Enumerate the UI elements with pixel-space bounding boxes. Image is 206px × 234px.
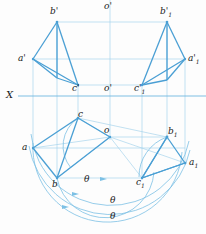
label-b-prime-1: b'1	[160, 7, 172, 18]
label-b-plan: b	[52, 180, 58, 189]
label-a-prime: a'	[18, 54, 26, 63]
aux-line-c-b1	[78, 118, 167, 137]
edge-cprime1-bprime1	[142, 22, 167, 85]
arrowhead-inner-arc	[100, 177, 107, 181]
dot-a-plan-1	[184, 162, 187, 165]
dot-a-plan	[32, 147, 34, 149]
triangle-front-right	[142, 22, 185, 85]
label-c-prime: c'	[72, 84, 80, 93]
label-x-axis: X	[6, 90, 13, 100]
label-b-plan-1-subscript: 1	[174, 131, 178, 138]
arrowhead-outer-arc	[62, 205, 69, 209]
edge-b1-c1-alt	[142, 137, 167, 178]
label-o-prime-mid: o'	[104, 84, 112, 93]
projection-drawing-canvas	[0, 0, 206, 234]
label-c-prime-1-subscript: 1	[142, 88, 146, 95]
dot-a-prime	[32, 58, 34, 60]
edge-a-b	[33, 148, 57, 178]
label-o-prime-top: o'	[104, 2, 112, 11]
dot-o-plan	[109, 136, 111, 138]
label-c-plan: c	[78, 110, 83, 119]
label-b-prime: b'	[50, 7, 58, 16]
edge-c-a	[33, 118, 78, 148]
aux-line-o-c1	[110, 137, 142, 178]
label-theta-middle: θ	[110, 196, 115, 205]
label-b-prime-1-subscript: 1	[168, 11, 172, 18]
label-theta-inner: θ	[84, 175, 89, 184]
edge-cprime-bprime	[57, 22, 78, 85]
edge-aprime1-inner	[167, 59, 185, 80]
aux-line-o-a1	[110, 137, 185, 163]
dot-b-prime	[56, 21, 59, 24]
descriptive-geometry-figure: o' b' b'1 a' a'1 c' o' c'1 X c o b1 a a1…	[0, 0, 206, 234]
triangle-front-left	[33, 22, 78, 85]
label-theta-outer: θ	[110, 212, 115, 221]
label-a-plan: a	[22, 143, 27, 152]
label-c-prime-1: c'1	[134, 84, 145, 95]
dot-a-prime-1	[184, 58, 186, 60]
arrowhead-middle-arc	[72, 192, 79, 196]
dot-b-prime-1	[166, 21, 169, 24]
label-c-plan-1: c1	[136, 178, 145, 189]
label-a-plan-1-subscript: 1	[194, 162, 198, 169]
label-b-plan-1: b1	[168, 127, 178, 138]
label-a-prime-1-subscript: 1	[196, 58, 200, 65]
label-c-plan-1-subscript: 1	[141, 182, 145, 189]
label-a-prime-1: a'1	[188, 54, 200, 65]
edge-b1-a1	[167, 137, 185, 163]
label-a-plan-1: a1	[189, 158, 198, 169]
edge-aprime-inner	[33, 59, 57, 78]
edge-bprime-aprime	[33, 22, 57, 59]
edge-bprime1-aprime1	[167, 22, 185, 59]
label-o-plan: o	[104, 126, 109, 135]
